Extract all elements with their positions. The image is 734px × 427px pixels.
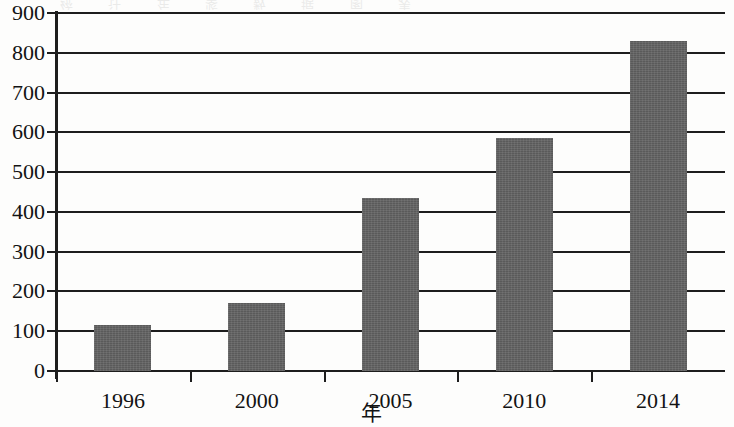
y-axis-tick-label: 400: [12, 199, 45, 225]
bar: [630, 41, 687, 371]
y-axis-tick: [47, 171, 56, 173]
bar: [496, 138, 553, 371]
x-axis-tick: [56, 371, 58, 382]
x-axis-tick-label: 2000: [235, 388, 279, 414]
y-axis-tick-label: 500: [12, 159, 45, 185]
y-axis-tick-label: 800: [12, 40, 45, 66]
y-axis-tick: [47, 131, 56, 133]
x-axis-tick-label: 2014: [636, 388, 680, 414]
gridline: [56, 12, 725, 14]
y-axis-tick-label: 300: [12, 239, 45, 265]
y-axis-tick: [47, 330, 56, 332]
y-axis-tick: [47, 92, 56, 94]
y-axis-tick: [47, 211, 56, 213]
x-axis-tick-label: 2010: [502, 388, 546, 414]
y-axis-tick-label: 0: [34, 358, 45, 384]
x-axis-tick-end: [725, 371, 727, 382]
x-axis-tick: [457, 371, 459, 382]
gridline: [56, 131, 725, 133]
bar-chart-figure: 统 计 年 鉴 数 据 图 表 900800700600500400300200…: [0, 0, 734, 427]
x-axis-tick: [324, 371, 326, 382]
y-axis-tick-label: 900: [12, 0, 45, 26]
x-axis-tick: [591, 371, 593, 382]
bar: [228, 303, 285, 371]
y-axis-tick-label: 100: [12, 318, 45, 344]
y-axis-tick: [47, 290, 56, 292]
x-axis-title: 年: [361, 396, 382, 426]
gridline: [56, 171, 725, 173]
x-axis-tick-label: 1996: [101, 388, 145, 414]
y-axis-tick: [47, 52, 56, 54]
y-axis-tick-label: 700: [12, 80, 45, 106]
x-axis-tick: [190, 371, 192, 382]
y-axis-line: [55, 11, 58, 379]
y-axis-tick: [47, 251, 56, 253]
plot-area: 9008007006005004003002001000: [56, 13, 725, 371]
gridline: [56, 92, 725, 94]
y-axis-tick: [47, 370, 56, 372]
y-axis-tick-label: 200: [12, 278, 45, 304]
bar: [94, 325, 151, 371]
y-axis-tick: [47, 12, 56, 14]
gridline: [56, 52, 725, 54]
bar: [362, 198, 419, 371]
y-axis-tick-label: 600: [12, 119, 45, 145]
